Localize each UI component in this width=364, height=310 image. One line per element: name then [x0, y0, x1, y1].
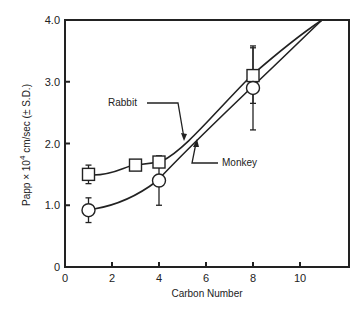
x-tick-label: 4: [156, 272, 162, 284]
x-tick-label: 0: [62, 272, 68, 284]
monkey-curve: [94, 20, 322, 209]
x-tick-label: 8: [250, 272, 256, 284]
x-axis: 0246810: [62, 262, 306, 284]
x-tick-label: 6: [203, 272, 209, 284]
rabbit-square-marker: [83, 168, 95, 180]
y-tick-label: 0: [54, 261, 60, 273]
y-tick-label: 3.0: [45, 76, 60, 88]
y-tick-label: 1.0: [45, 199, 60, 211]
annotation-rabbit-label: Rabbit: [108, 97, 137, 108]
rabbit-square-marker: [130, 159, 142, 171]
monkey-circle-marker: [82, 204, 95, 217]
monkey-circle-marker: [247, 81, 260, 94]
rabbit-square-marker: [247, 70, 259, 82]
chart: 01.02.03.04.0 0246810 Carbon Number Papp…: [0, 0, 364, 310]
y-tick-label: 2.0: [45, 138, 60, 150]
rabbit-square-marker: [153, 156, 165, 168]
y-axis: 01.02.03.04.0: [45, 14, 70, 273]
series-layer: [82, 46, 260, 223]
annotation-rabbit: Rabbit: [108, 97, 187, 141]
annotation-monkey: Monkey: [192, 139, 257, 168]
annotation-monkey-label: Monkey: [222, 157, 257, 168]
monkey-circle-marker: [153, 174, 166, 187]
plot-area-frame: [65, 20, 349, 267]
x-tick-label: 10: [294, 272, 306, 284]
x-tick-label: 2: [109, 272, 115, 284]
x-axis-title: Carbon Number: [171, 288, 243, 299]
arrow-head-icon: [181, 133, 187, 141]
y-axis-title: Papp × 104 cm/sec (± S.D.): [18, 84, 32, 206]
y-tick-label: 4.0: [45, 14, 60, 26]
